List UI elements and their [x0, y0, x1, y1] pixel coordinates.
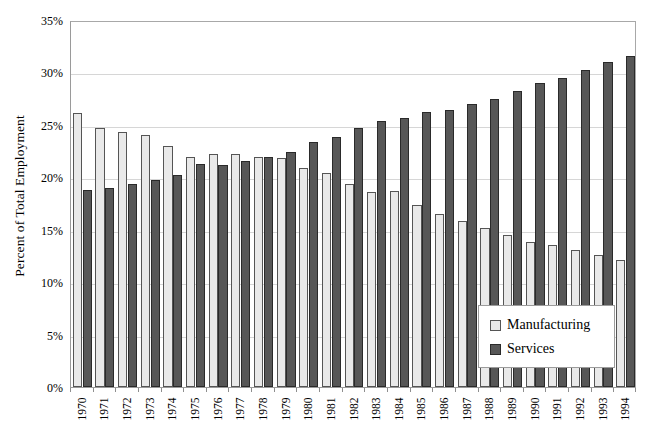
- x-tick-label-text: 1982: [347, 398, 359, 421]
- bar-services: [218, 165, 227, 387]
- x-tick-label-text: 1981: [324, 398, 336, 421]
- bar-manufacturing: [458, 221, 467, 387]
- x-tick-label: 1983: [369, 392, 383, 428]
- y-tick-label: 35%: [41, 14, 63, 29]
- bar-manufacturing: [209, 154, 218, 387]
- legend-swatch-manufacturing: [490, 320, 501, 331]
- bar-services: [173, 175, 182, 387]
- bar-manufacturing: [367, 192, 376, 387]
- bar-services: [377, 121, 386, 387]
- x-tick-label: 1987: [459, 392, 473, 428]
- bar-services: [445, 110, 454, 387]
- legend-item-manufacturing: Manufacturing: [490, 313, 614, 337]
- x-tick-label: 1984: [391, 392, 405, 428]
- bar-manufacturing: [299, 168, 308, 387]
- x-tick-label: 1993: [595, 392, 609, 428]
- bar-manufacturing: [412, 205, 421, 387]
- bar-manufacturing: [118, 132, 127, 387]
- bar-services: [264, 157, 273, 387]
- y-tick-label: 25%: [41, 118, 63, 133]
- bar-manufacturing: [186, 157, 195, 387]
- x-tick-label: 1982: [346, 392, 360, 428]
- x-tick-label-text: 1975: [189, 398, 201, 421]
- x-tick-label: 1975: [188, 392, 202, 428]
- x-tick-label: 1973: [142, 392, 156, 428]
- bar-group: [322, 22, 341, 387]
- y-tick-label: 30%: [41, 66, 63, 81]
- bar-group: [163, 22, 182, 387]
- x-tick-label-text: 1987: [460, 398, 472, 421]
- x-tick-label-text: 1991: [551, 398, 563, 421]
- bar-group: [141, 22, 160, 387]
- chart-figure: Percent of Total Employment 0%5%10%15%20…: [0, 0, 654, 441]
- x-tick-label-text: 1972: [121, 398, 133, 421]
- bar-services: [151, 180, 160, 387]
- bar-group: [231, 22, 250, 387]
- x-tick-label-text: 1970: [75, 398, 87, 421]
- x-tick-label: 1981: [323, 392, 337, 428]
- x-tick-label-text: 1985: [415, 398, 427, 421]
- x-tick-label: 1994: [618, 392, 632, 428]
- legend-label-services: Services: [507, 342, 554, 356]
- x-tick-label-text: 1980: [302, 398, 314, 421]
- bar-services: [354, 128, 363, 387]
- bar-group: [390, 22, 409, 387]
- bar-manufacturing: [345, 184, 354, 387]
- bar-services: [309, 142, 318, 387]
- bar-group: [412, 22, 431, 387]
- x-tick-label: 1988: [482, 392, 496, 428]
- bar-group: [73, 22, 92, 387]
- bar-group: [186, 22, 205, 387]
- y-tick-label: 20%: [41, 171, 63, 186]
- x-tick-label: 1989: [504, 392, 518, 428]
- bar-manufacturing: [435, 214, 444, 387]
- y-axis-ticks: 0%5%10%15%20%25%30%35%: [0, 0, 70, 441]
- bar-group: [118, 22, 137, 387]
- x-tick-label-text: 1988: [483, 398, 495, 421]
- x-tick-label: 1978: [255, 392, 269, 428]
- bar-manufacturing: [390, 191, 399, 387]
- x-tick-label: 1990: [527, 392, 541, 428]
- x-axis-labels: 1970197119721973197419751976197719781979…: [70, 392, 636, 428]
- chart-legend: Manufacturing Services: [478, 305, 615, 368]
- bar-group: [254, 22, 273, 387]
- x-tick-label-text: 1977: [234, 398, 246, 421]
- bar-group: [367, 22, 386, 387]
- bar-manufacturing: [277, 158, 286, 387]
- x-tick-label-text: 1986: [438, 398, 450, 421]
- bar-services: [400, 118, 409, 387]
- bar-services: [467, 104, 476, 387]
- legend-item-services: Services: [490, 337, 614, 361]
- x-tick-label: 1985: [414, 392, 428, 428]
- bar-manufacturing: [73, 113, 82, 387]
- bar-services: [626, 56, 635, 387]
- bar-services: [128, 184, 137, 387]
- x-tick-label-text: 1994: [619, 398, 631, 421]
- x-tick-label-text: 1971: [98, 398, 110, 421]
- y-tick-label: 10%: [41, 276, 63, 291]
- bar-group: [209, 22, 228, 387]
- bar-group: [299, 22, 318, 387]
- x-tick-label-text: 1974: [166, 398, 178, 421]
- bar-manufacturing: [616, 260, 625, 387]
- x-tick-label-text: 1992: [573, 398, 585, 421]
- bar-group: [95, 22, 114, 387]
- x-tick-label-text: 1984: [392, 398, 404, 421]
- x-tick-label: 1972: [120, 392, 134, 428]
- bar-services: [332, 137, 341, 387]
- bar-manufacturing: [95, 128, 104, 387]
- x-tick-label-text: 1976: [211, 398, 223, 421]
- x-tick-label: 1977: [233, 392, 247, 428]
- bar-group: [616, 22, 635, 387]
- x-tick-label: 1974: [165, 392, 179, 428]
- x-tick-label-text: 1989: [505, 398, 517, 421]
- x-tick-label: 1980: [301, 392, 315, 428]
- x-tick-label-text: 1979: [279, 398, 291, 421]
- y-tick-label: 0%: [47, 381, 63, 396]
- bar-services: [196, 164, 205, 387]
- x-tick-label: 1979: [278, 392, 292, 428]
- y-tick-label: 5%: [47, 328, 63, 343]
- bar-manufacturing: [322, 173, 331, 387]
- y-tick-label: 15%: [41, 223, 63, 238]
- x-tick-label: 1970: [74, 392, 88, 428]
